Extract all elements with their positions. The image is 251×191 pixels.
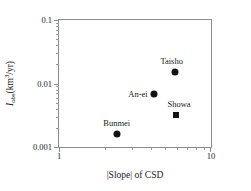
x-axis-minor-tick — [196, 147, 197, 150]
data-point-marker — [150, 91, 157, 98]
y-axis-minor-tick — [56, 109, 59, 110]
y-axis-minor-tick — [56, 93, 59, 94]
y-axis-minor-tick — [56, 34, 59, 35]
y-axis-minor-tick — [56, 98, 59, 99]
y-axis-minor-tick — [56, 39, 59, 40]
x-axis-label: |Slope| of CSD — [58, 171, 212, 181]
y-axis-tick — [54, 84, 59, 85]
x-axis-minor-tick — [132, 147, 133, 150]
y-axis-minor-tick — [56, 128, 59, 129]
y-axis-label: Iobs (km3/yr) — [4, 19, 18, 148]
y-axis-minor-tick — [56, 86, 59, 87]
x-axis-tick-label: 1 — [57, 152, 61, 161]
y-axis-label-symbol: I — [6, 103, 16, 106]
scatter-plot-figure: Iobs (km3/yr) 0.10.010.001110TaishoAn-ei… — [0, 0, 251, 191]
y-axis-label-units-open: (km — [6, 78, 16, 93]
x-axis-minor-tick — [187, 147, 188, 150]
x-axis-minor-tick — [177, 147, 178, 150]
y-axis-minor-tick — [56, 30, 59, 31]
x-axis-minor-tick — [165, 147, 166, 150]
y-axis-minor-tick — [56, 103, 59, 104]
data-point-marker — [173, 112, 179, 118]
y-axis-minor-tick — [56, 26, 59, 27]
y-axis-minor-tick — [56, 117, 59, 118]
y-axis-label-units-close: /yr) — [6, 61, 16, 75]
x-axis-tick-label: 10 — [207, 152, 216, 161]
x-axis-minor-tick — [105, 147, 106, 150]
y-axis-tick — [54, 20, 59, 21]
y-axis-label-subscript: obs — [10, 93, 17, 102]
data-point-label: Showa — [167, 99, 190, 108]
x-axis-minor-tick — [151, 147, 152, 150]
y-axis-minor-tick — [56, 90, 59, 91]
y-axis-tick-label: 0.001 — [33, 143, 52, 152]
y-axis-minor-tick — [56, 45, 59, 46]
y-axis-label-exponent: 3 — [4, 75, 11, 78]
y-axis-minor-tick — [56, 53, 59, 54]
data-point-label: Taisho — [160, 57, 183, 66]
data-point-label: Bunmei — [103, 119, 130, 128]
y-axis-tick-label: 0.01 — [37, 79, 52, 88]
x-axis-minor-tick — [204, 147, 205, 150]
data-point-label: An-ei — [128, 90, 147, 99]
data-point-marker — [113, 131, 120, 138]
y-axis-minor-tick — [56, 64, 59, 65]
plot-area: 0.10.010.001110TaishoAn-eiShowaBunmei — [58, 19, 212, 148]
y-axis-tick-label: 0.1 — [41, 16, 52, 25]
y-axis-minor-tick — [56, 23, 59, 24]
data-point-marker — [172, 69, 179, 76]
